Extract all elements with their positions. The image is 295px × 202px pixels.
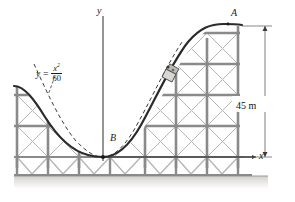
point-b-marker — [101, 155, 105, 159]
point-a-label: A — [231, 7, 237, 18]
roller-coaster-figure: y x A B 45 m y = x2 60 — [0, 0, 295, 202]
y-axis-label: y — [97, 5, 101, 16]
height-dimension-label: 45 m — [236, 100, 256, 111]
point-a-marker — [227, 23, 230, 26]
base-truss — [14, 157, 252, 176]
point-markers — [101, 23, 229, 159]
right-truss-posts — [145, 24, 238, 170]
equation-fraction: x2 60 — [51, 62, 62, 83]
left-truss-beams — [10, 95, 110, 126]
ground-shadow — [14, 176, 268, 189]
base-truss-webbing — [17, 157, 238, 174]
dimension-arrow-top — [263, 26, 268, 31]
equation-numerator: x2 — [51, 62, 62, 74]
equation-lhs: y = — [36, 69, 49, 79]
equation-exponent: 2 — [57, 62, 60, 68]
parabola-dashed-curve — [34, 42, 182, 157]
point-b-label: B — [110, 132, 116, 143]
curve-equation-label: y = x2 60 — [36, 62, 62, 83]
right-truss — [108, 24, 244, 170]
x-axis-label: x — [259, 150, 263, 161]
equation-denominator: 60 — [51, 74, 62, 83]
